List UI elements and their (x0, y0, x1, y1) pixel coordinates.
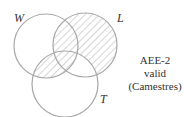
label-w: W (14, 11, 24, 26)
note-name: (Camestres) (126, 80, 184, 93)
label-t: T (100, 92, 107, 107)
label-l: L (117, 11, 124, 26)
note-validity: valid (126, 67, 184, 80)
syllogism-note: AEE-2 valid (Camestres) (126, 54, 184, 93)
note-form: AEE-2 (126, 54, 184, 67)
